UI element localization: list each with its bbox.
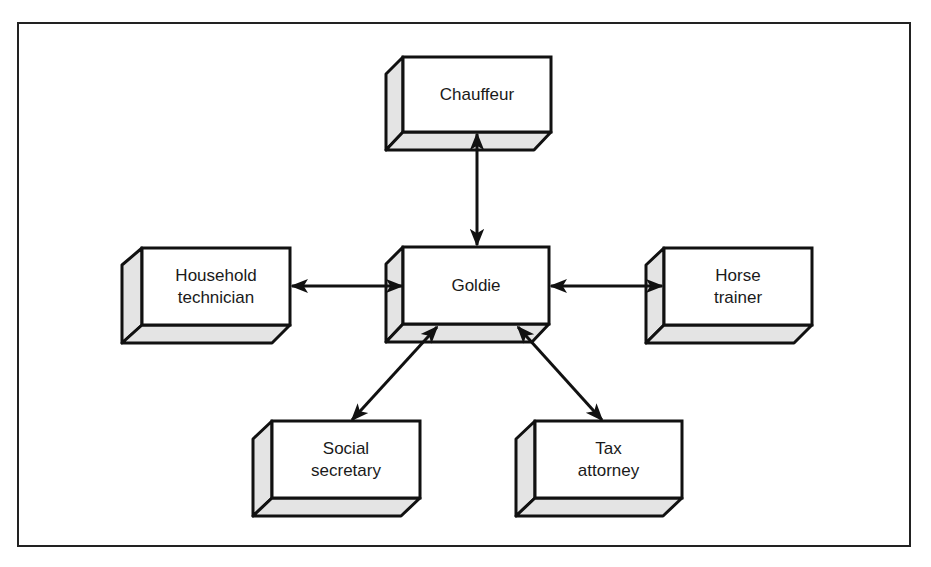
node-label-horse-trainer: Horse trainer xyxy=(664,248,812,325)
node-label-household-technician: Household technician xyxy=(142,248,290,325)
node-label-social-secretary: Social secretary xyxy=(272,421,420,498)
node-label-goldie: Goldie xyxy=(403,247,549,324)
diagram-canvas: Chauffeur Goldie Household technician Ho… xyxy=(0,0,931,567)
node-label-tax-attorney: Tax attorney xyxy=(535,421,682,498)
node-label-chauffeur: Chauffeur xyxy=(403,57,551,132)
arrow-goldie-tax xyxy=(518,327,602,420)
